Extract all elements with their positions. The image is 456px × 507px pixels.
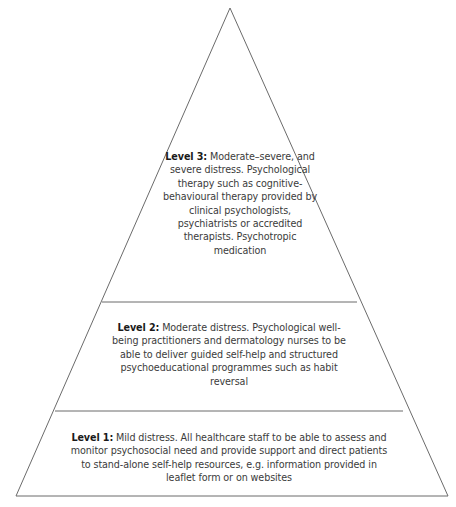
- level-1-description: Level 1: Mild distress. All healthcare s…: [66, 431, 392, 485]
- level-1-label: Level 1:: [71, 432, 113, 443]
- level-2-description: Level 2: Moderate distress. Psychologica…: [112, 321, 346, 388]
- level-3-label: Level 3:: [165, 151, 207, 162]
- level-2-label: Level 2:: [117, 322, 159, 333]
- level-3-description: Level 3: Moderate–severe, and severe dis…: [160, 150, 320, 257]
- level-1-text: Mild distress. All healthcare staff to b…: [71, 432, 387, 483]
- level-3-text: Moderate–severe, and severe distress. Ps…: [163, 151, 317, 256]
